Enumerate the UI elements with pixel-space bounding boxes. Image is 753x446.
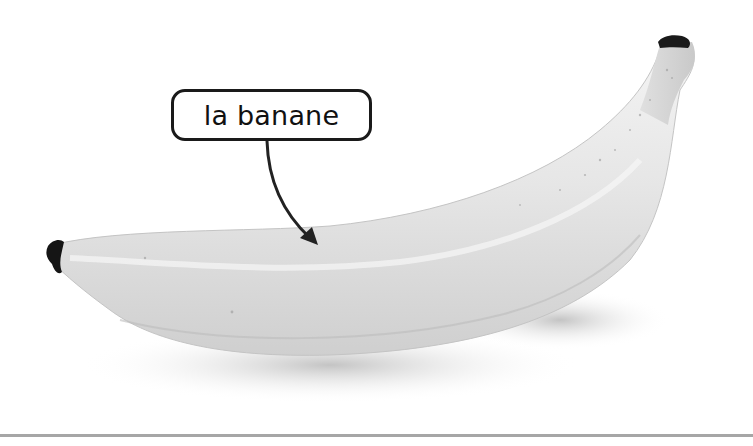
banana-photo: [0, 0, 753, 446]
banana-stem-tip: [658, 35, 690, 48]
bottom-divider: [0, 434, 753, 437]
arrow-line: [267, 141, 310, 238]
label-text: la banane: [204, 100, 340, 131]
label-callout: la banane: [171, 89, 372, 141]
